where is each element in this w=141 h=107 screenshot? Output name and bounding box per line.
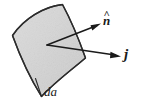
surface-patch <box>13 5 86 97</box>
area-element-label: da <box>44 84 57 100</box>
current-density-vector-arrowhead <box>110 52 121 58</box>
normal-vector-label: ^ n <box>103 14 110 27</box>
normal-vector-arrowhead <box>91 24 102 31</box>
surface-patch-group <box>13 5 86 97</box>
vector-diagram-svg <box>0 0 141 107</box>
figure-container: ^ n j da <box>0 0 141 107</box>
current-density-vector-label: j <box>124 47 128 62</box>
hat-accent-icon: ^ <box>103 9 110 20</box>
